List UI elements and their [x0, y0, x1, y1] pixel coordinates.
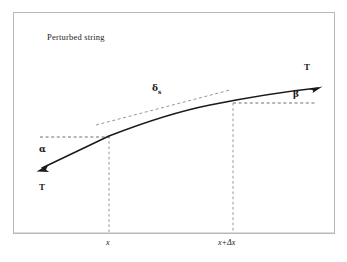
perturbed-string-figure: Perturbed string α T δs β T x x+Δx: [0, 0, 347, 262]
tension-right-label: T: [304, 63, 310, 72]
figure-frame: [14, 13, 335, 234]
angle-alpha-label: α: [39, 145, 46, 154]
angle-beta-label: β: [293, 90, 299, 99]
tension-left-label: T: [39, 183, 45, 192]
arc-length-element-label: δs: [152, 84, 161, 95]
page-title: Perturbed string: [47, 33, 105, 42]
delta-subscript: s: [158, 88, 161, 95]
x-tick-label-x-plus-delta-x: x+Δx: [218, 239, 235, 247]
x-tick-label-x: x: [106, 239, 110, 247]
